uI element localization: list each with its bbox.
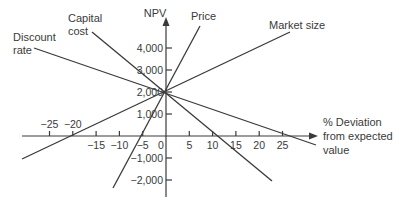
x-tick-label: 20 [253,139,265,151]
x-tick-label: 0 [158,139,164,151]
series-lines [22,26,316,188]
sensitivity-chart: −25−20−15−10−50510152025 −2,000−1,0001,0… [0,0,404,208]
label-discount-rate-1: Discount [13,31,56,43]
line-capital-cost [92,32,272,181]
x-axis-label-1: % Deviation [323,116,382,128]
x-tick-label: −20 [64,118,82,130]
y-tick-label: 4,000 [137,42,163,54]
x-axis-label-3: value [323,144,349,156]
label-price: Price [191,10,216,22]
x-axis-arrow-icon [309,133,318,140]
label-market-size: Market size [269,19,325,31]
y-tick-label: −1,000 [131,152,164,164]
x-tick-label: 5 [186,139,192,151]
line-discount-rate [34,48,316,145]
label-capital-cost-1: Capital [68,12,102,24]
label-discount-rate-2: rate [13,44,32,56]
label-capital-cost-2: cost [68,25,88,37]
y-axis: −2,000−1,0001,0002,0003,0004,000 [131,17,172,197]
x-tick-label: −25 [41,118,59,130]
x-tick-label: 25 [277,139,289,151]
x-tick-label: −15 [87,139,105,151]
x-tick-label: −10 [110,139,128,151]
x-axis: −25−20−15−10−50510152025 [22,118,318,151]
x-tick-label: 15 [230,139,242,151]
x-tick-label: 10 [207,139,219,151]
y-tick-label: −2,000 [131,174,164,186]
y-axis-label: NPV [144,7,167,19]
x-axis-label-2: from expected [323,130,393,142]
y-tick-label: 3,000 [137,64,163,76]
